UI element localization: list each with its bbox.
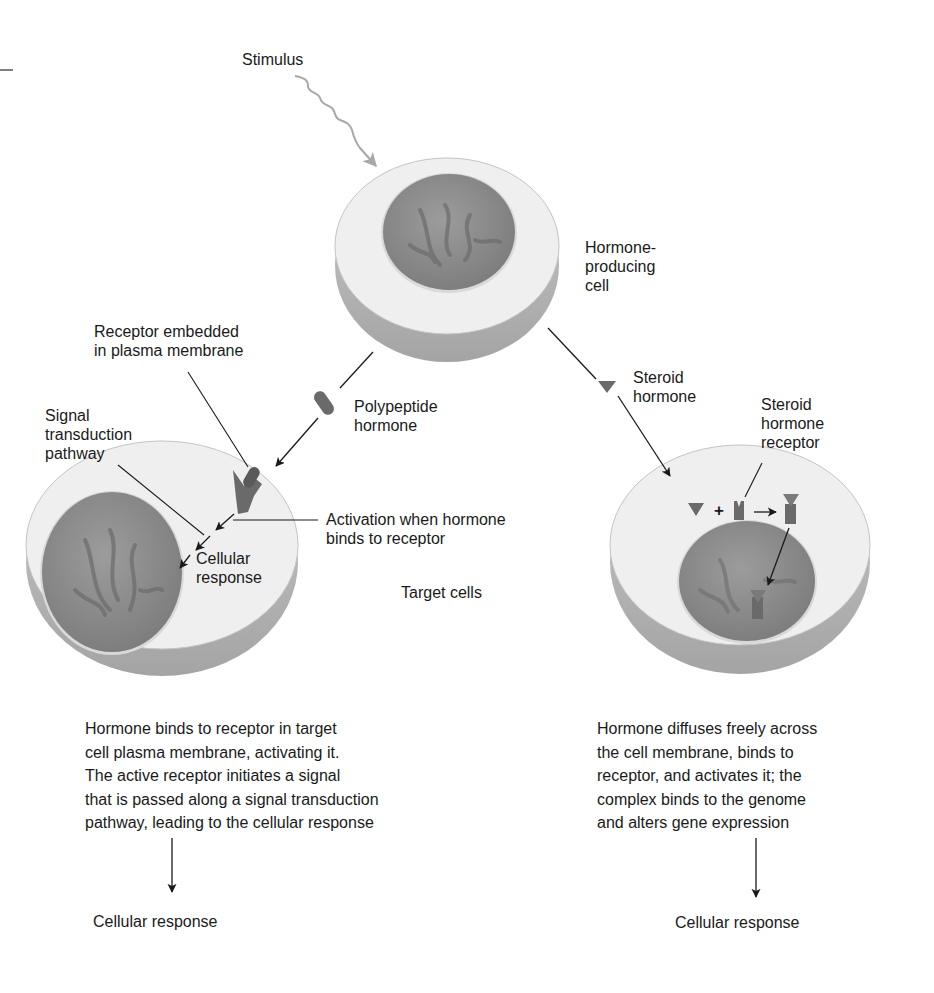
- hormone-signaling-diagram: [0, 0, 934, 993]
- activation-label: Activation when hormone binds to recepto…: [326, 510, 506, 548]
- steroid-hormone-label: Steroid hormone: [633, 368, 696, 406]
- hormone-producing-cell-label: Hormone- producing cell: [585, 238, 656, 295]
- signal-transduction-label: Signal transduction pathway: [45, 406, 132, 463]
- stimulus-label: Stimulus: [242, 50, 303, 69]
- steroid-hormone-receptor-label: Steroid hormone receptor: [761, 395, 824, 452]
- target-cells-label: Target cells: [401, 583, 482, 602]
- polypeptide-hormone-label: Polypeptide hormone: [354, 397, 438, 435]
- hormone-producing-cell: [335, 158, 559, 362]
- stimulus-wave: [295, 76, 376, 166]
- receptor-embedded-label: Receptor embedded in plasma membrane: [94, 322, 243, 360]
- plus-sign: +: [714, 501, 724, 520]
- cellular-response-inner-label: Cellular response: [196, 549, 262, 587]
- right-description: Hormone diffuses freely across the cell …: [597, 717, 817, 835]
- right-outcome-label: Cellular response: [675, 913, 800, 932]
- left-outcome-label: Cellular response: [93, 912, 218, 931]
- steroid-hormone-icon: [598, 381, 616, 393]
- right-target-cell: [610, 445, 870, 674]
- polypeptide-hormone-icon: [312, 389, 337, 417]
- left-description: Hormone binds to receptor in target cell…: [85, 717, 379, 835]
